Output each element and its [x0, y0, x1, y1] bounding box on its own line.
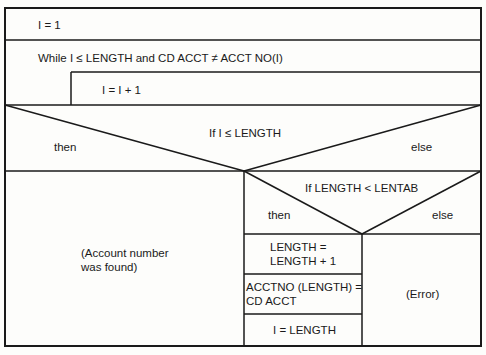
if2-then-label: then: [268, 208, 290, 222]
init-statement: I = 1: [38, 18, 61, 32]
step-assign-line-1: ACCTNO (LENGTH) =: [246, 280, 362, 294]
while-condition: While I ≤ LENGTH and CD ACCT ≠ ACCT NO(I…: [38, 51, 283, 65]
if1-then-label: then: [54, 140, 76, 154]
step-assign-line-2: CD ACCT: [246, 294, 296, 308]
step-increment-line-2: LENGTH + 1: [270, 254, 336, 268]
then-body-line-1: (Account number: [81, 246, 169, 260]
else-error: (Error): [406, 287, 439, 301]
loop-body-statement: I = I + 1: [102, 83, 141, 97]
if1-condition: If I ≤ LENGTH: [209, 126, 281, 140]
if1-else-label: else: [411, 140, 432, 154]
then-body-line-2: was found): [81, 260, 137, 274]
if2-condition: If LENGTH < LENTAB: [305, 181, 418, 195]
step-increment-line-1: LENGTH =: [270, 240, 327, 254]
step-set-index: I = LENGTH: [273, 323, 336, 337]
if2-else-label: else: [432, 208, 453, 222]
